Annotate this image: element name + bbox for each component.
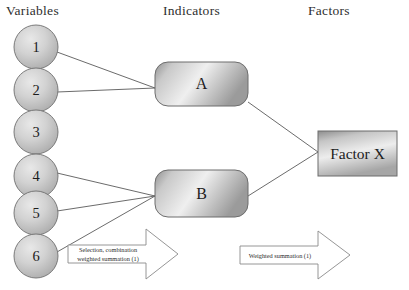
indicator-node-a[interactable] (155, 62, 248, 106)
connector-indicator-a-factor-x (248, 102, 318, 152)
variable-node-2[interactable] (14, 68, 58, 112)
process-arrow-shapes (68, 229, 350, 279)
diagram-graphics (0, 0, 409, 290)
indicator-node-b[interactable] (155, 170, 248, 217)
variable-nodes (14, 25, 58, 278)
diagram-canvas: Variables Indicators Factors (0, 0, 409, 290)
factor-nodes (318, 131, 397, 176)
variable-node-1[interactable] (14, 25, 58, 69)
process-arrow-weighted-shape[interactable] (240, 231, 350, 279)
variable-node-5[interactable] (14, 191, 58, 235)
connector-v6-indicator-b (57, 196, 155, 252)
connector-indicator-b-factor-x (248, 152, 318, 196)
connector-v4-indicator-b (57, 173, 155, 196)
variable-node-3[interactable] (14, 110, 58, 154)
factor-node-x[interactable] (318, 131, 397, 176)
connector-v1-indicator-a (57, 52, 155, 88)
connector-v2-indicator-a (57, 88, 155, 92)
variable-node-6[interactable] (14, 234, 58, 278)
indicator-nodes (155, 62, 248, 217)
connector-v5-indicator-b (57, 196, 155, 211)
